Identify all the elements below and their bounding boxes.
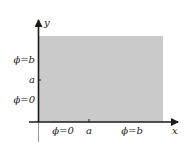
x-axis-label: x — [172, 125, 178, 136]
shaded-region — [39, 36, 163, 122]
bottom-label-phi-b: ϕ=b — [121, 125, 143, 136]
bottom-label-a: a — [86, 125, 92, 136]
left-label-a: a — [29, 74, 35, 85]
bottom-label-phi-0: ϕ=0 — [52, 125, 74, 136]
y-axis-label: y — [43, 17, 50, 28]
boundary-region-diagram: y x ϕ=b a ϕ=0 ϕ=0 a ϕ=b — [0, 0, 196, 144]
left-label-phi-b: ϕ=b — [13, 54, 35, 65]
left-label-phi-0: ϕ=0 — [13, 94, 35, 105]
